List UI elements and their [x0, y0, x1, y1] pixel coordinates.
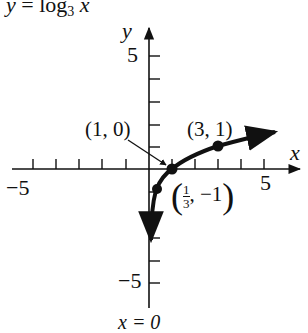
x-axis-label: x [290, 142, 300, 164]
x-tick-5: 5 [260, 172, 271, 194]
y-axis-label: y [122, 20, 132, 42]
pointer-arrow [128, 140, 166, 165]
y-tick-5: 5 [127, 44, 138, 66]
y-tick-neg5: −5 [118, 270, 141, 292]
point-3-1 [213, 141, 224, 152]
point-one-third-neg1 [152, 184, 162, 194]
point-label-1-0: (1, 0) [85, 119, 131, 140]
point-label-one-third-neg1: (13, −1) [171, 178, 234, 214]
point-1-0 [167, 164, 178, 175]
asymptote-label: x = 0 [118, 312, 160, 332]
x-tick-neg5: −5 [6, 177, 29, 199]
point-label-3-1: (3, 1) [187, 119, 233, 140]
